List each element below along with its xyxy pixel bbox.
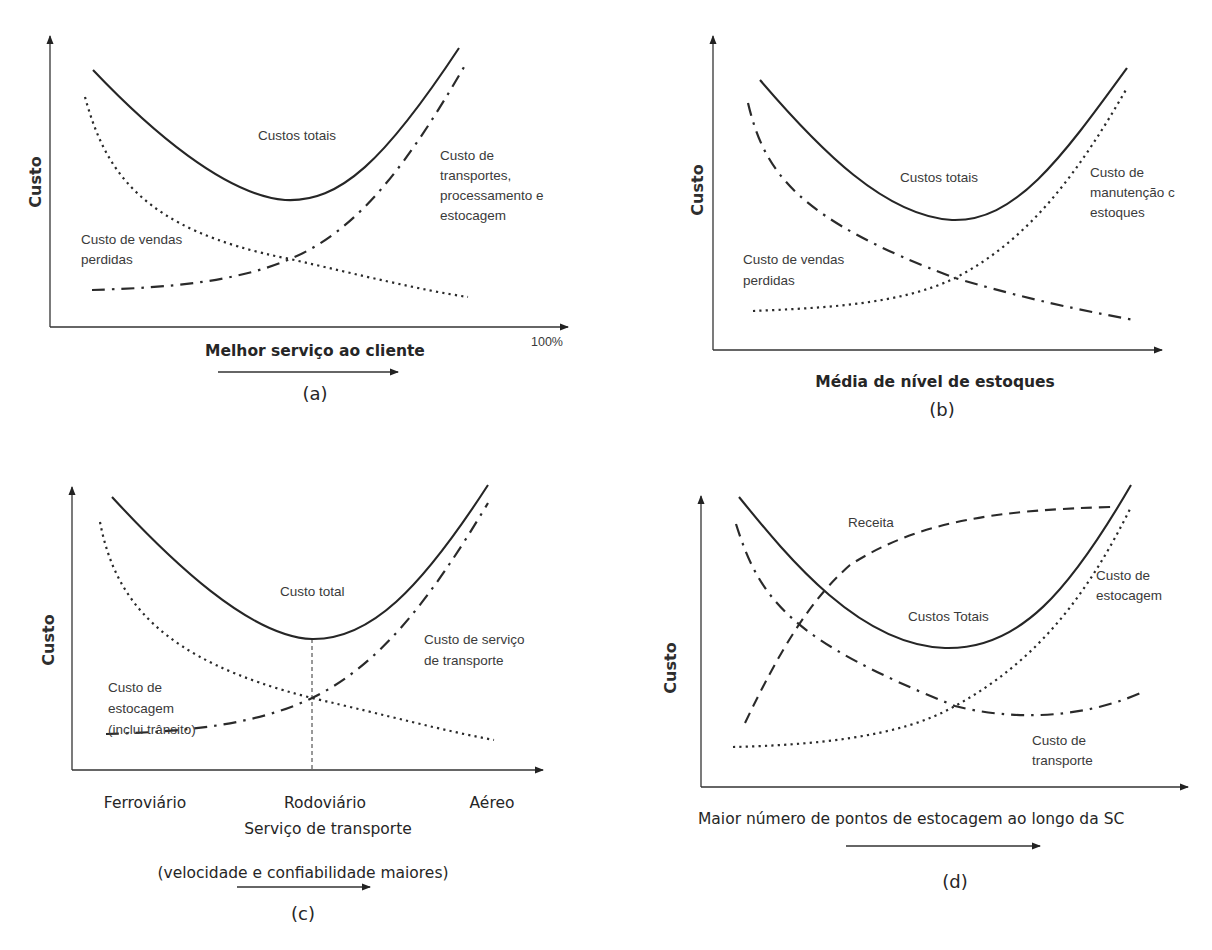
- label-transport-line4: estocagem: [440, 208, 506, 223]
- panel-caption: (b): [929, 399, 954, 420]
- label-service-line1: Custo de serviço: [424, 632, 525, 647]
- y-axis-label: Custo: [26, 156, 45, 207]
- label-storage-line2: estocagem: [108, 701, 174, 716]
- label-holding-line2: manutenção c: [1090, 185, 1175, 200]
- curve-total-cost: [112, 485, 488, 639]
- x-category-road: Rodoviário: [284, 794, 366, 812]
- label-holding-line3: estoques: [1090, 205, 1145, 220]
- label-storage-line2: estocagem: [1096, 588, 1162, 603]
- curve-transport-service-cost: [106, 503, 488, 734]
- x-axis-label: Maior número de pontos de estocagem ao l…: [698, 810, 1124, 828]
- label-storage-line3: (inclui trânsito): [108, 722, 196, 737]
- curve-transport-processing-storage: [92, 67, 464, 290]
- panel-b: Custo Custos totais Custo de vendas perd…: [688, 36, 1175, 420]
- panel-c: Custo Custo total Custo de estocagem (in…: [39, 485, 543, 924]
- label-revenue: Receita: [848, 515, 894, 530]
- panel-caption: (d): [942, 871, 967, 892]
- x-category-rail: Ferroviário: [104, 794, 186, 812]
- curve-holding-cost: [753, 88, 1127, 311]
- label-transport-line3: processamento e: [440, 188, 544, 203]
- label-total-cost: Custos totais: [900, 170, 978, 185]
- curve-lost-sales: [85, 97, 468, 297]
- label-lost-sales-line2: perdidas: [743, 273, 795, 288]
- panel-d: Custo Receita Custos Totais Custo de est…: [661, 485, 1188, 892]
- x-axis-sublabel: (velocidade e confiabilidade maiores): [157, 864, 448, 882]
- x-axis-label: Média de nível de estoques: [815, 373, 1055, 391]
- x-category-air: Aéreo: [470, 794, 515, 812]
- x-tick-100-percent: 100%: [531, 335, 563, 349]
- label-lost-sales-line1: Custo de vendas: [743, 252, 845, 267]
- label-lost-sales-line2: perdidas: [81, 252, 133, 267]
- curve-total-cost: [760, 68, 1127, 220]
- label-transport-line1: Custo de: [440, 148, 494, 163]
- label-holding-line1: Custo de: [1090, 165, 1144, 180]
- panel-caption: (c): [291, 903, 315, 924]
- x-axis-label: Serviço de transporte: [244, 820, 412, 838]
- x-axis-label: Melhor serviço ao cliente: [205, 342, 425, 360]
- panel-caption: (a): [302, 383, 327, 404]
- label-total-cost: Custos totais: [258, 128, 336, 143]
- panel-a: Custo Custos totais Custo de vendas perd…: [26, 36, 568, 404]
- label-service-line2: de transporte: [424, 653, 504, 668]
- label-transport-line2: transportes,: [440, 168, 511, 183]
- label-storage-line1: Custo de: [108, 680, 162, 695]
- label-transport-line2: transporte: [1032, 753, 1093, 768]
- y-axis-label: Custo: [688, 164, 707, 215]
- label-total-cost: Custos Totais: [908, 609, 989, 624]
- curve-total-cost: [93, 48, 459, 200]
- y-axis-label: Custo: [661, 642, 680, 693]
- figure-canvas: Custo Custos totais Custo de vendas perd…: [0, 0, 1212, 950]
- label-lost-sales-line1: Custo de vendas: [81, 232, 183, 247]
- y-axis-label: Custo: [39, 614, 58, 665]
- label-storage-line1: Custo de: [1096, 568, 1150, 583]
- label-total-cost: Custo total: [280, 584, 345, 599]
- curve-storage-cost: [733, 507, 1131, 747]
- label-transport-line1: Custo de: [1032, 733, 1086, 748]
